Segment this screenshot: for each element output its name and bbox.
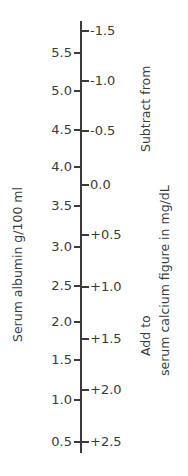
calcium-tick-mark xyxy=(82,441,89,443)
calcium-tick-label: -1.0 xyxy=(90,74,115,87)
subtract-from-label: Subtract from xyxy=(139,66,153,152)
calcium-tick-mark xyxy=(82,389,89,391)
calcium-tick-label: -1.5 xyxy=(90,24,115,37)
albumin-tick-mark xyxy=(74,285,81,287)
calcium-tick-mark xyxy=(82,184,89,186)
albumin-axis-title: Serum albumin g/100 ml xyxy=(11,187,25,342)
albumin-tick-mark xyxy=(74,52,81,54)
albumin-tick-mark xyxy=(74,246,81,248)
albumin-tick-label: 4.0 xyxy=(51,160,72,173)
calcium-tick-mark xyxy=(82,30,89,32)
albumin-tick-mark xyxy=(74,399,81,401)
calcium-tick-label: +1.0 xyxy=(90,280,122,293)
calcium-tick-label: +2.0 xyxy=(90,383,122,396)
albumin-tick-label: 4.5 xyxy=(51,123,72,136)
albumin-tick-mark xyxy=(74,205,81,207)
calcium-units-label: serum calcium figure in mg/dL xyxy=(158,185,172,376)
albumin-tick-mark xyxy=(74,129,81,131)
albumin-tick-label: 3.0 xyxy=(51,240,72,253)
calcium-tick-label: +0.5 xyxy=(90,228,122,241)
add-to-label: Add to xyxy=(139,315,153,356)
calcium-tick-label: +2.5 xyxy=(90,435,122,448)
calcium-tick-label: -0.5 xyxy=(90,124,115,137)
albumin-tick-label: 1.0 xyxy=(51,393,72,406)
albumin-tick-mark xyxy=(74,166,81,168)
albumin-tick-mark xyxy=(74,441,81,443)
calcium-tick-mark xyxy=(82,338,89,340)
albumin-tick-label: 1.5 xyxy=(51,353,72,366)
albumin-tick-label: 5.5 xyxy=(51,46,72,59)
calcium-tick-mark xyxy=(82,234,89,236)
calcium-tick-mark xyxy=(82,80,89,82)
albumin-tick-label: 2.5 xyxy=(51,279,72,292)
albumin-tick-label: 0.5 xyxy=(51,435,72,448)
albumin-tick-mark xyxy=(74,321,81,323)
calcium-tick-label: 0.0 xyxy=(90,178,111,191)
albumin-tick-label: 3.5 xyxy=(51,199,72,212)
albumin-tick-label: 2.0 xyxy=(51,315,72,328)
albumin-tick-mark xyxy=(74,359,81,361)
calcium-tick-mark xyxy=(82,286,89,288)
calcium-tick-label: +1.5 xyxy=(90,332,122,345)
albumin-tick-mark xyxy=(74,90,81,92)
calcium-tick-mark xyxy=(82,130,89,132)
albumin-tick-label: 5.0 xyxy=(51,84,72,97)
